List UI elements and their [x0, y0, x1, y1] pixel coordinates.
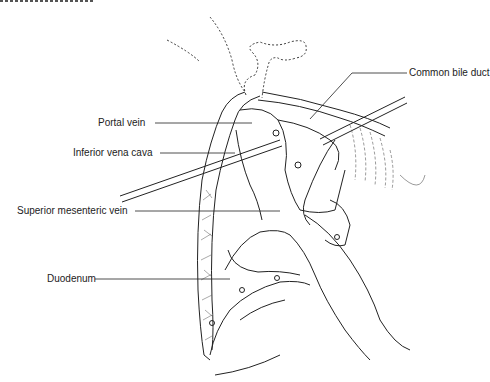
right-tissue: [350, 125, 425, 190]
retractor-rods: [120, 97, 407, 225]
label-inferior-vena-cava: Inferior vena cava: [73, 147, 153, 159]
liver-outline-dotted: [167, 17, 306, 98]
label-portal-vein: Portal vein: [98, 117, 145, 129]
label-duodenum: Duodenum: [47, 273, 96, 285]
label-common-bile-duct: Common bile duct: [409, 67, 490, 79]
leader-common-bile-duct: [310, 73, 407, 119]
duodenum-region: [210, 200, 411, 375]
portal-vein-region: [236, 109, 345, 220]
label-superior-mesenteric-vein: Superior mesenteric vein: [17, 205, 128, 217]
vessel-band: [198, 92, 391, 360]
leader-lines: [95, 73, 407, 279]
